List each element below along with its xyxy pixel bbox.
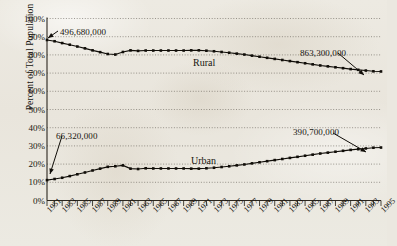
data-point-marker (289, 157, 292, 160)
data-point-marker (137, 168, 140, 171)
data-point-marker (243, 163, 246, 166)
data-point-marker (266, 160, 269, 163)
data-point-marker (122, 51, 125, 54)
data-point-marker (243, 53, 246, 56)
series-label-rural: Rural (193, 57, 215, 68)
data-point-marker (84, 47, 87, 50)
data-point-marker (137, 50, 140, 53)
data-point-marker (61, 42, 64, 45)
data-point-marker (342, 67, 345, 70)
data-point-marker (235, 52, 238, 55)
data-point-marker (258, 161, 261, 164)
data-point-marker (228, 165, 231, 168)
data-point-marker (175, 49, 178, 52)
series-label-urban: Urban (191, 155, 216, 166)
data-point-marker (273, 159, 276, 162)
data-point-marker (251, 54, 254, 57)
data-point-marker (220, 51, 223, 54)
data-point-marker (319, 152, 322, 155)
data-point-marker (304, 62, 307, 65)
data-point-marker (289, 60, 292, 63)
data-point-marker (99, 51, 102, 54)
data-annotation-label: 66,320,000 (56, 131, 98, 141)
data-point-marker (61, 176, 64, 179)
data-point-marker (319, 64, 322, 67)
annotation-arrow (50, 136, 62, 174)
data-point-marker (68, 175, 71, 178)
data-point-marker (46, 39, 49, 42)
data-point-marker (182, 49, 185, 52)
data-point-marker (327, 65, 330, 68)
data-point-marker (251, 162, 254, 165)
data-annotation-label: 496,680,000 (60, 27, 106, 37)
data-point-marker (296, 61, 299, 64)
data-point-marker (266, 57, 269, 60)
data-point-marker (91, 169, 94, 172)
data-point-marker (205, 49, 208, 52)
data-point-marker (281, 158, 284, 161)
data-point-marker (198, 49, 201, 52)
data-point-marker (122, 164, 125, 167)
data-point-marker (152, 49, 155, 52)
data-point-marker (190, 167, 193, 170)
data-point-marker (380, 70, 383, 73)
data-point-marker (213, 166, 216, 169)
data-point-marker (129, 167, 132, 170)
data-point-marker (68, 43, 71, 46)
data-point-marker (167, 167, 170, 170)
data-point-marker (334, 66, 337, 69)
data-point-marker (198, 167, 201, 170)
data-point-marker (106, 53, 109, 56)
annotation-arrowhead (49, 168, 53, 174)
data-point-marker (91, 49, 94, 52)
data-point-marker (76, 45, 79, 48)
data-point-marker (228, 51, 231, 54)
data-point-marker (304, 154, 307, 157)
data-point-marker (380, 146, 383, 149)
data-point-marker (106, 166, 109, 169)
annotation-arrowhead (48, 33, 54, 38)
data-point-marker (296, 156, 299, 159)
data-point-marker (190, 49, 193, 52)
data-point-marker (99, 167, 102, 170)
data-point-marker (205, 167, 208, 170)
data-point-marker (349, 68, 352, 71)
data-point-marker (327, 151, 330, 154)
data-point-marker (182, 167, 185, 170)
data-point-marker (152, 167, 155, 170)
data-point-marker (372, 70, 375, 73)
data-point-marker (365, 147, 368, 150)
data-point-marker (311, 63, 314, 66)
data-point-marker (167, 49, 170, 52)
data-point-marker (175, 167, 178, 170)
data-point-marker (46, 179, 49, 182)
data-point-marker (84, 171, 87, 174)
data-point-marker (258, 55, 261, 58)
data-point-marker (273, 58, 276, 61)
data-annotation-label: 390,700,000 (293, 127, 339, 137)
data-point-marker (334, 150, 337, 153)
data-point-marker (144, 167, 147, 170)
data-point-marker (76, 173, 79, 176)
data-point-marker (235, 164, 238, 167)
data-point-marker (342, 150, 345, 153)
data-point-marker (114, 165, 117, 168)
data-point-marker (160, 49, 163, 52)
data-point-marker (53, 40, 56, 43)
data-point-marker (365, 69, 368, 72)
data-point-marker (349, 149, 352, 152)
data-point-marker (311, 153, 314, 156)
data-annotation-label: 863,300,000 (300, 48, 346, 58)
data-point-marker (160, 167, 163, 170)
data-point-marker (53, 178, 56, 181)
data-point-marker (114, 53, 117, 56)
data-point-marker (220, 166, 223, 169)
data-point-marker (281, 59, 284, 62)
data-point-marker (144, 49, 147, 52)
data-point-marker (372, 146, 375, 149)
data-point-marker (213, 50, 216, 53)
data-point-marker (129, 49, 132, 52)
